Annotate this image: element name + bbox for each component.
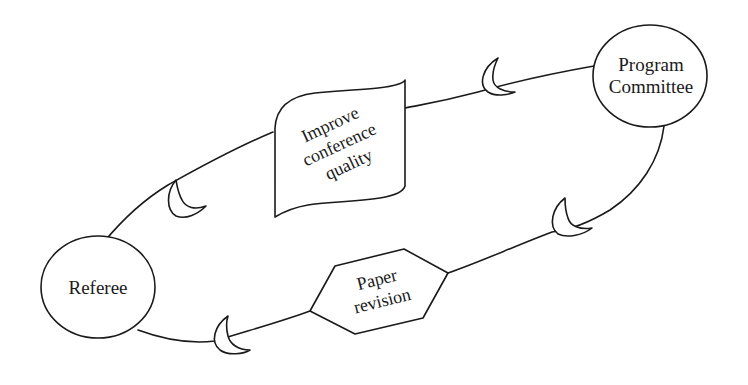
edge-committee-to-revision xyxy=(448,126,664,273)
node-improve-quality: Improve conference quality xyxy=(275,80,405,217)
node-label: Program xyxy=(618,54,684,75)
cycle-diagram: Program Committee Referee Improve confer… xyxy=(0,0,748,385)
edge-committee-to-improve xyxy=(405,66,594,108)
arrow-head-icon xyxy=(552,198,592,236)
node-referee: Referee xyxy=(41,236,155,338)
arrow-head-icon xyxy=(483,58,515,95)
edge-improve-to-referee xyxy=(104,132,273,242)
node-label: Committee xyxy=(609,76,693,97)
node-label: Referee xyxy=(68,277,127,298)
node-paper-revision: Paper revision xyxy=(310,249,448,334)
arrow-head-icon xyxy=(169,180,207,217)
node-program-committee: Program Committee xyxy=(593,25,707,127)
